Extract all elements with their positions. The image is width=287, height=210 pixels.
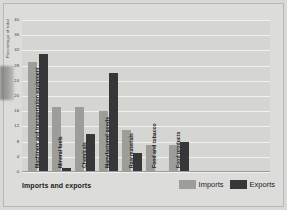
y-tick-label: 8 bbox=[3, 140, 19, 144]
y-tick-label: 28 bbox=[3, 64, 19, 68]
category-label: Food products bbox=[176, 132, 181, 168]
plot-area: Machinery and transportation equipmentMi… bbox=[22, 20, 270, 172]
category-label: Machinery and transportation equipment bbox=[35, 67, 40, 168]
chart-page: Percentage of total Machinery and transp… bbox=[0, 0, 287, 210]
legend-label-exports: Exports bbox=[250, 180, 275, 189]
x-axis-baseline bbox=[22, 171, 270, 172]
y-tick-label: 12 bbox=[3, 124, 19, 128]
y-tick-label: 16 bbox=[3, 109, 19, 113]
category-label: Chemicals bbox=[82, 142, 87, 168]
exports-swatch-icon bbox=[230, 180, 247, 189]
gridline bbox=[22, 35, 270, 36]
legend-label-imports: Imports bbox=[199, 180, 224, 189]
gridline bbox=[22, 96, 270, 97]
y-tick-label: 32 bbox=[3, 48, 19, 52]
category-label: Food and tobacco bbox=[152, 123, 157, 168]
legend-item-exports: Exports bbox=[230, 180, 275, 189]
chart-footer-title: Imports and exports bbox=[22, 182, 91, 189]
bar-exports bbox=[109, 73, 118, 172]
y-tick-label: 0 bbox=[3, 170, 19, 174]
chart-plot-region: Machinery and transportation equipmentMi… bbox=[22, 20, 270, 172]
gridline bbox=[22, 172, 270, 173]
y-tick-label: 20 bbox=[3, 94, 19, 98]
chart-legend: Imports Exports bbox=[179, 180, 275, 189]
category-label: Mineral fuels bbox=[58, 136, 63, 168]
y-tick-label: 24 bbox=[3, 79, 19, 83]
y-tick-label: 40 bbox=[3, 18, 19, 22]
gridline bbox=[22, 50, 270, 51]
y-tick-label: 4 bbox=[3, 155, 19, 159]
y-tick-label: 36 bbox=[3, 33, 19, 37]
gridline bbox=[22, 20, 270, 21]
gridline bbox=[22, 81, 270, 82]
legend-item-imports: Imports bbox=[179, 180, 224, 189]
category-label: Manufactured goods bbox=[105, 117, 110, 168]
imports-swatch-icon bbox=[179, 180, 196, 189]
gridline bbox=[22, 66, 270, 67]
category-label: Raw materials bbox=[129, 133, 134, 168]
